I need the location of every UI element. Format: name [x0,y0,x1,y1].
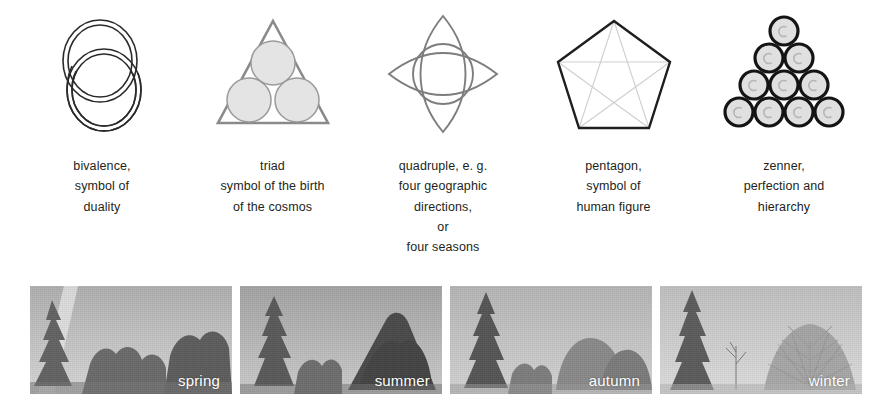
symbol-cell-zenner: zenner, perfection and hierarchy [700,0,868,217]
symbol-cell-pentagon: pentagon, symbol of human figure [530,0,698,217]
symbol-caption-triad: triad symbol of the birth of the cosmos [220,156,324,217]
caption-line: or [399,217,487,237]
caption-line: four seasons [399,237,487,257]
caption-line: symbol of [73,176,130,196]
photo-card-summer: summer [240,286,442,394]
symbol-caption-zenner: zenner, perfection and hierarchy [744,156,825,217]
photo-card-winter: winter [660,286,862,394]
caption-line: of the cosmos [220,197,324,217]
caption-line: bivalence, [73,156,130,176]
caption-line: perfection and [744,176,825,196]
photo-label-summer: summer [375,373,430,388]
photo-label-autumn: autumn [589,373,640,388]
photo-card-autumn: autumn [450,286,652,394]
caption-line: zenner, [744,156,825,176]
symbol-caption-pentagon: pentagon, symbol of human figure [576,156,650,217]
seasons-photo-strip: spring summer [0,286,886,398]
photo-card-spring: spring [30,286,232,394]
symbol-caption-quadruple: quadruple, e. g. four geographic directi… [399,156,487,257]
symbol-cell-bivalence: bivalence, symbol of duality [18,0,186,217]
two-interlocking-rings-icon [37,8,167,140]
four-petal-vesica-circle-icon [378,8,508,140]
symbol-row: bivalence, symbol of duality triad symbo… [0,0,886,275]
photo-label-spring: spring [178,373,220,388]
symbol-cell-quadruple: quadruple, e. g. four geographic directi… [359,0,527,257]
caption-line: directions, [399,197,487,217]
caption-line: human figure [576,197,650,217]
symbol-cell-triad: triad symbol of the birth of the cosmos [189,0,357,217]
caption-line: four geographic [399,176,487,196]
pentagon-with-pentagram-icon [549,8,679,140]
triangle-with-three-circles-icon [208,8,338,140]
caption-line: symbol of the birth [220,176,324,196]
caption-line: pentagon, [576,156,650,176]
symbol-caption-bivalence: bivalence, symbol of duality [73,156,130,217]
photo-label-winter: winter [809,373,850,388]
caption-line: hierarchy [744,197,825,217]
caption-line: triad [220,156,324,176]
caption-line: quadruple, e. g. [399,156,487,176]
caption-line: duality [73,197,130,217]
tetractys-ten-circles-icon [719,8,849,140]
caption-line: symbol of [576,176,650,196]
